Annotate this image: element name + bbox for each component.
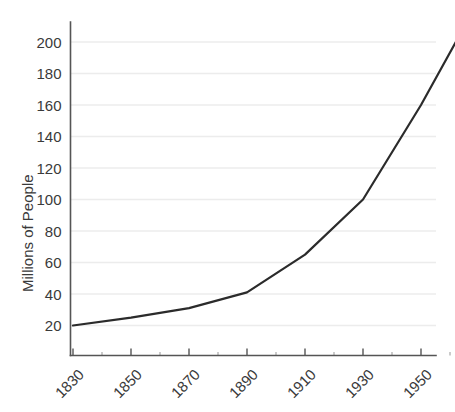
y-axis-tick-label: 120: [36, 160, 61, 177]
y-axis-tick-label: 140: [36, 128, 61, 145]
y-axis-tick-label: 40: [45, 286, 62, 303]
y-axis-tick-label: 180: [36, 65, 61, 82]
y-axis-tick-label: 200: [36, 34, 61, 51]
line-chart: 20406080100120140160180200 1830185018701…: [0, 0, 455, 412]
y-axis-title: Millions of People: [19, 174, 36, 292]
y-axis-tick-label: 60: [45, 254, 62, 271]
y-axis-tick-label: 20: [45, 317, 62, 334]
y-axis-tick-label: 80: [45, 223, 62, 240]
chart-background: [0, 0, 455, 412]
y-axis-tick-label: 100: [36, 191, 61, 208]
chart-canvas: 20406080100120140160180200 1830185018701…: [0, 0, 455, 412]
y-axis-tick-label: 160: [36, 97, 61, 114]
